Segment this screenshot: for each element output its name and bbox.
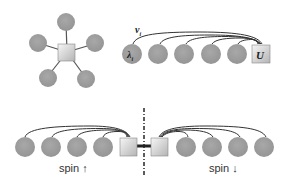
spin-down-label: spin ↓ [209,162,238,174]
bath-site [86,34,104,52]
spin-down-site [176,137,196,157]
spin-up-site [41,137,61,157]
hopping-label: vi [135,24,141,37]
spin-geometry: spin ↑ spin ↓ [15,108,274,177]
bath-site [77,70,95,88]
bath-site [148,44,168,64]
spin-up-impurity [120,138,137,156]
spin-up-label: spin ↑ [59,162,88,174]
bath-site [29,34,47,52]
interaction-label: U [256,49,265,61]
chain-geometry: vi λi U [122,24,270,64]
star-geometry [29,13,104,88]
spin-up-site [93,137,113,157]
spin-down-site [202,137,222,157]
bath-site [227,44,247,64]
spin-down-site [254,137,274,157]
bath-site [174,44,194,64]
spin-down-impurity [151,138,168,156]
bath-site [201,44,221,64]
spin-up-site [67,137,87,157]
bath-site [57,13,75,31]
bath-site [39,69,57,87]
spin-down-site [228,137,248,157]
impurity-square [58,44,75,61]
diagram-canvas: vi λi U spin ↑ [0,0,288,185]
spin-up-site [15,137,35,157]
